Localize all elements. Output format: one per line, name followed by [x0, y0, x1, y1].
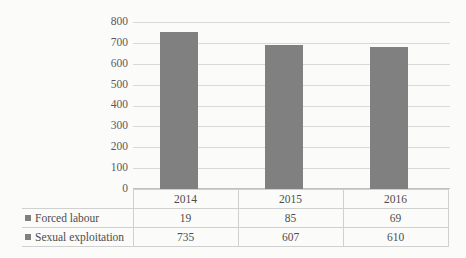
y-tick-200: 200 — [95, 141, 128, 153]
table-cell-forced-labour-2016: 69 — [343, 209, 448, 228]
table-cell-forced-labour-2015: 85 — [238, 209, 343, 228]
table-row-sexual-exploitation: Sexual exploitation 735 607 610 — [22, 228, 448, 247]
table-cell-sexual-exploitation-2016: 610 — [343, 228, 448, 247]
y-tick-700: 700 — [95, 37, 128, 49]
y-tick-800: 800 — [95, 16, 128, 28]
gridline-800 — [133, 22, 450, 23]
table-cell-sexual-exploitation-2014: 735 — [133, 228, 238, 247]
table-cell-forced-labour-2014: 19 — [133, 209, 238, 228]
legend-label-forced-labour: Forced labour — [35, 213, 99, 225]
plot-area — [133, 22, 450, 189]
legend-label-sexual-exploitation: Sexual exploitation — [35, 232, 124, 244]
bar-2015 — [265, 45, 303, 190]
table-cell-category-2014: 2014 — [133, 190, 238, 209]
table-cell-category-2016: 2016 — [343, 190, 448, 209]
table-cell-sexual-exploitation-2015: 607 — [238, 228, 343, 247]
legend-swatch-icon-sexual-exploitation — [25, 234, 31, 240]
legend-item-forced-labour: Forced labour — [22, 209, 133, 228]
y-tick-300: 300 — [95, 120, 128, 132]
legend-item-sexual-exploitation: Sexual exploitation — [22, 228, 133, 247]
table-row-categories: 2014 2015 2016 — [22, 190, 448, 209]
table-corner-blank — [22, 190, 133, 209]
y-tick-400: 400 — [95, 99, 128, 111]
table-row-forced-labour: Forced labour 19 85 69 — [22, 209, 448, 228]
stacked-bar-chart-with-data-table: 800 700 600 500 400 300 200 100 0 — [0, 0, 466, 258]
y-tick-100: 100 — [95, 162, 128, 174]
legend-swatch-icon-forced-labour — [25, 215, 31, 221]
bar-2014 — [160, 32, 198, 189]
data-table: 2014 2015 2016 Forced labour 19 85 69 Se… — [22, 189, 449, 247]
y-tick-600: 600 — [95, 58, 128, 70]
table-cell-category-2015: 2015 — [238, 190, 343, 209]
bar-2016 — [370, 47, 408, 189]
y-tick-500: 500 — [95, 79, 128, 91]
